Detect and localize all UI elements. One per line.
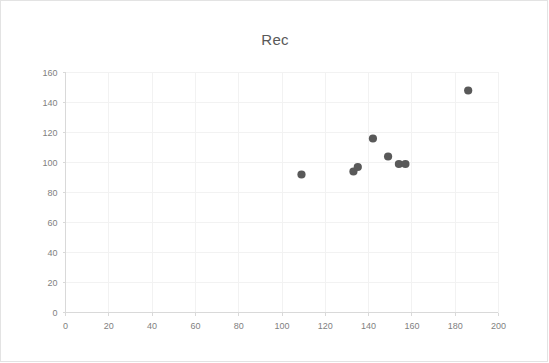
y-tick-label: 40 xyxy=(47,248,57,258)
y-tick-label: 20 xyxy=(47,278,57,288)
data-point xyxy=(297,170,305,178)
x-tick-label: 120 xyxy=(318,321,333,331)
axes xyxy=(63,73,499,316)
x-tick-label: 0 xyxy=(63,321,68,331)
y-tick-label: 160 xyxy=(42,68,57,78)
data-point xyxy=(369,134,377,142)
scatter-plot: 0204060801001201401600204060801001201401… xyxy=(1,1,549,363)
x-tick-label: 160 xyxy=(404,321,419,331)
x-tick-label: 140 xyxy=(361,321,376,331)
data-point xyxy=(384,152,392,160)
y-tick-label: 120 xyxy=(42,128,57,138)
x-tick-label: 60 xyxy=(190,321,200,331)
x-tick-label: 180 xyxy=(448,321,463,331)
tick-labels: 0204060801001201401600204060801001201401… xyxy=(42,68,506,331)
y-tick-label: 100 xyxy=(42,158,57,168)
y-tick-label: 0 xyxy=(52,308,57,318)
x-tick-label: 200 xyxy=(491,321,506,331)
data-point xyxy=(354,163,362,171)
gridlines xyxy=(66,73,499,313)
y-tick-label: 80 xyxy=(47,188,57,198)
chart-frame: Rec 020406080100120140160020406080100120… xyxy=(0,0,548,362)
y-tick-label: 60 xyxy=(47,218,57,228)
x-tick-label: 20 xyxy=(104,321,114,331)
data-point xyxy=(464,86,472,94)
x-tick-label: 100 xyxy=(274,321,289,331)
x-tick-label: 40 xyxy=(147,321,157,331)
x-tick-label: 80 xyxy=(234,321,244,331)
y-tick-label: 140 xyxy=(42,98,57,108)
data-point xyxy=(401,160,409,168)
